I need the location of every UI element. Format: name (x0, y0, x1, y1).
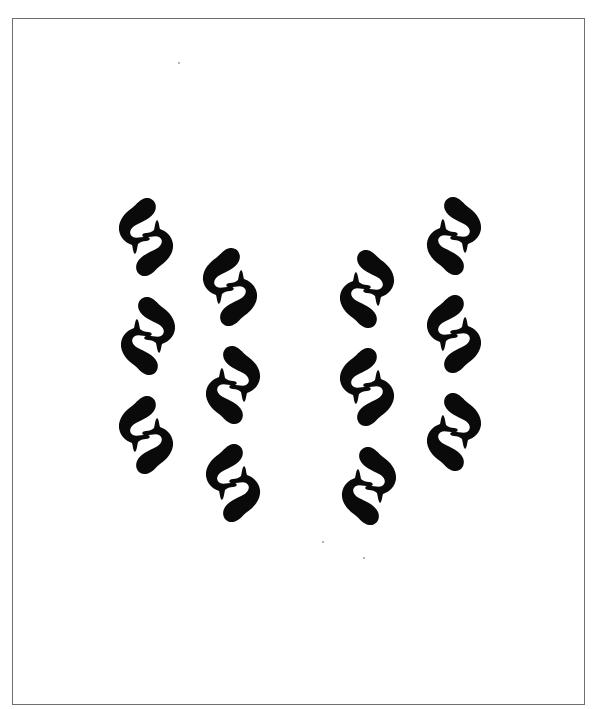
fish-pair-icon (116, 394, 176, 476)
speck (322, 541, 324, 543)
fish-pair-icon (203, 442, 263, 524)
fish-pair-icon (339, 445, 399, 527)
fish-pair-icon (203, 344, 263, 426)
speck (178, 62, 180, 64)
fish-pair-icon (424, 195, 484, 277)
fish-pair-icon (116, 196, 176, 278)
fish-pair-icon (200, 246, 260, 328)
fish-pair-icon (424, 293, 484, 375)
artwork-frame (12, 18, 585, 705)
fish-pair-icon (337, 346, 397, 428)
speck (363, 557, 365, 559)
fish-pair-icon (118, 295, 178, 377)
fish-pair-icon (337, 248, 397, 330)
fish-pair-icon (424, 391, 484, 473)
